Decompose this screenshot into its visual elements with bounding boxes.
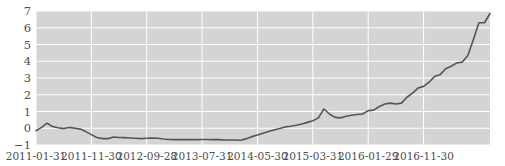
y-tick-label: 1 <box>24 105 31 119</box>
x-tick-label: 2015-03-31 <box>283 150 344 162</box>
y-tick-label: 6 <box>24 21 31 35</box>
y-axis-tick-labels: −101234567 <box>14 4 31 152</box>
y-tick-label: 0 <box>24 121 31 135</box>
x-tick-label: 2016-11-30 <box>393 150 454 162</box>
x-tick-label: 2011-01-31 <box>6 150 67 162</box>
line-chart: −101234567 2011-01-312011-11-302012-09-2… <box>0 0 505 166</box>
y-tick-label: 2 <box>24 88 31 102</box>
x-tick-label: 2013-07-31 <box>172 150 233 162</box>
y-tick-label: 5 <box>24 38 31 52</box>
chart-container: −101234567 2011-01-312011-11-302012-09-2… <box>0 0 505 166</box>
x-tick-label: 2012-09-28 <box>116 150 177 162</box>
y-tick-label: 3 <box>24 71 31 85</box>
x-axis-tick-labels: 2011-01-312011-11-302012-09-282013-07-31… <box>6 150 454 162</box>
x-tick-label: 2016-01-29 <box>338 150 399 162</box>
y-tick-label: 4 <box>24 54 31 68</box>
x-tick-label: 2011-11-30 <box>61 150 122 162</box>
chart-svg: −101234567 2011-01-312011-11-302012-09-2… <box>0 0 505 166</box>
y-tick-label: 7 <box>24 4 31 18</box>
x-tick-label: 2014-05-30 <box>227 150 288 162</box>
